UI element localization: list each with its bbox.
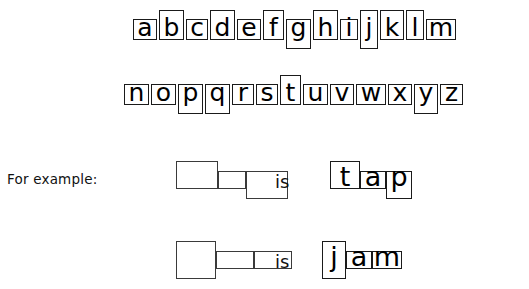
letter-cell-x: x: [388, 71, 412, 117]
letter-cell-i: i: [340, 6, 358, 52]
letter-glyph-m: m: [429, 15, 453, 40]
letter-cell-u: u: [303, 71, 328, 117]
alphabet-row-1: abcdefghijklm: [133, 6, 458, 52]
letter-cell-m: m: [426, 6, 456, 52]
example-1-connector: is: [275, 171, 289, 192]
letter-glyph-i: i: [346, 15, 353, 40]
letter-cell-z: z: [440, 71, 463, 117]
letter-glyph-p: p: [183, 80, 199, 105]
letter-cell-f: f: [263, 6, 284, 52]
example-2-connector: is: [275, 251, 289, 272]
alphabet-row-2: nopqrstuvwxyz: [124, 71, 465, 117]
letter-cell-e: e: [237, 6, 261, 52]
answer-letter-glyph-a: a: [365, 163, 382, 190]
letter-glyph-w: w: [361, 80, 381, 105]
shape-box: [218, 171, 246, 189]
answer-letter-glyph-j: j: [330, 243, 338, 270]
letter-glyph-y: y: [419, 80, 434, 105]
letter-cell-p: p: [178, 71, 203, 117]
shape-box: [176, 161, 218, 189]
letter-cell-d: d: [210, 6, 235, 52]
worksheet-canvas: abcdefghijklm nopqrstuvwxyz For example:…: [0, 0, 529, 289]
letter-cell-y: y: [414, 71, 438, 117]
letter-glyph-f: f: [269, 15, 278, 40]
letter-cell-v: v: [330, 71, 354, 117]
example-row-2: isjam: [0, 235, 529, 289]
letter-cell-w: w: [356, 71, 386, 117]
letter-cell-l: l: [406, 6, 424, 52]
letter-glyph-x: x: [393, 80, 408, 105]
letter-cell-t: t: [280, 71, 301, 117]
example-row-1: istap: [0, 155, 529, 213]
letter-glyph-g: g: [291, 15, 307, 40]
answer-letter-glyph-m: m: [374, 243, 400, 270]
answer-letter-glyph-a: a: [351, 243, 368, 270]
letter-cell-q: q: [205, 71, 230, 117]
letter-glyph-b: b: [164, 15, 180, 40]
letter-glyph-d: d: [215, 15, 231, 40]
letter-cell-a: a: [133, 6, 157, 52]
letter-glyph-o: o: [156, 80, 171, 105]
letter-cell-b: b: [159, 6, 184, 52]
letter-glyph-z: z: [445, 80, 458, 105]
letter-cell-n: n: [124, 71, 149, 117]
letter-cell-c: c: [186, 6, 208, 52]
letter-cell-h: h: [313, 6, 338, 52]
letter-cell-j: j: [360, 6, 378, 52]
letter-cell-k: k: [380, 6, 404, 52]
letter-glyph-r: r: [238, 80, 248, 105]
letter-glyph-l: l: [412, 15, 419, 40]
answer-letter-glyph-t: t: [340, 163, 351, 190]
letter-glyph-t: t: [286, 80, 296, 105]
letter-glyph-q: q: [210, 80, 226, 105]
letter-glyph-u: u: [308, 80, 324, 105]
letter-cell-s: s: [256, 71, 278, 117]
shape-box: [216, 251, 254, 269]
letter-glyph-n: n: [129, 80, 145, 105]
letter-glyph-a: a: [137, 15, 152, 40]
letter-cell-o: o: [151, 71, 176, 117]
answer-letter-glyph-p: p: [390, 163, 407, 190]
letter-glyph-c: c: [190, 15, 204, 40]
letter-glyph-s: s: [260, 80, 273, 105]
shape-box: [176, 241, 216, 279]
letter-glyph-e: e: [241, 15, 256, 40]
letter-glyph-j: j: [366, 15, 373, 40]
letter-glyph-v: v: [335, 80, 350, 105]
letter-cell-r: r: [232, 71, 254, 117]
letter-glyph-h: h: [318, 15, 334, 40]
letter-cell-g: g: [286, 6, 311, 52]
letter-glyph-k: k: [385, 15, 399, 40]
